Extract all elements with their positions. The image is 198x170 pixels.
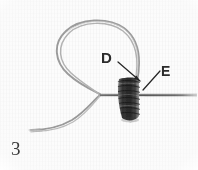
label-e: E bbox=[161, 64, 170, 78]
photo-background bbox=[0, 0, 198, 170]
label-d: D bbox=[101, 50, 112, 65]
knot-photograph bbox=[0, 0, 198, 170]
figure-number: 3 bbox=[11, 139, 21, 158]
knot-tying-figure: D E 3 bbox=[0, 0, 198, 170]
